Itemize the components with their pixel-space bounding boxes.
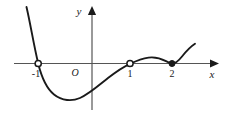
x-tick-label-minus-one: -1 [32,68,40,79]
function-graph-figure: -1 1 2 O y x [0,0,231,114]
function-curve [27,7,196,100]
y-axis [88,6,96,110]
x-tick-label-two: 2 [170,68,175,79]
origin-label: O [71,67,78,78]
marker-open-circle-one [127,60,133,66]
marker-open-circle-minus-one [35,60,41,66]
x-axis-label: x [209,68,215,80]
x-tick-label-one: 1 [128,68,133,79]
graph-canvas: -1 1 2 O y x [0,0,231,114]
y-axis-label: y [76,5,82,17]
marker-filled-dot-two [169,61,175,67]
x-axis [14,59,219,67]
x-axis-arrowhead [210,59,219,67]
y-axis-arrowhead [88,6,96,15]
